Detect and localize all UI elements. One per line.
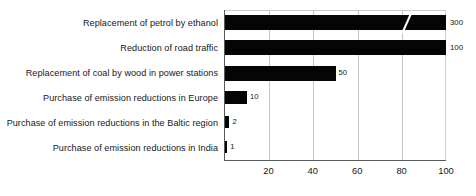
category-axis-labels: Replacement of petrol by ethanol Reducti… <box>0 10 218 161</box>
x-tick-80: 80 <box>396 166 406 176</box>
category-label-replacement-of-coal-by-wood: Replacement of coal by wood in power sta… <box>0 68 218 78</box>
gridline-80 <box>402 10 403 160</box>
bar-value-label: 1 <box>230 143 234 151</box>
bar-purchase-emission-reductions-india: 1 <box>225 141 227 153</box>
bar-replacement-of-petrol-by-ethanol <box>225 15 446 30</box>
bar-value-label-100: 100 <box>450 44 463 52</box>
gridline-40 <box>313 10 314 160</box>
plot-frame-top <box>225 10 446 11</box>
bar-row: 10 <box>225 91 446 104</box>
bar-row: 2 <box>225 116 446 128</box>
category-label-purchase-emission-reductions-baltic: Purchase of emission reductions in the B… <box>0 118 218 128</box>
plot-frame-right <box>445 10 446 160</box>
bar-chart: Replacement of petrol by ethanol Reducti… <box>0 0 476 196</box>
bar-value-label: 2 <box>232 118 236 126</box>
gridline-20 <box>269 10 270 160</box>
x-tick-60: 60 <box>352 166 362 176</box>
bar-value-label: 50 <box>339 69 347 77</box>
bar-value-label-300: 300 <box>450 19 463 27</box>
category-label-purchase-emission-reductions-europe: Purchase of emission reductions in Europ… <box>0 93 218 103</box>
bar-replacement-of-coal-by-wood: 50 <box>225 66 336 81</box>
bar-purchase-emission-reductions-baltic: 2 <box>225 116 229 128</box>
x-axis-tick-labels: 20 40 60 80 100 <box>224 163 446 179</box>
x-tick-20: 20 <box>263 166 273 176</box>
category-label-purchase-emission-reductions-india: Purchase of emission reductions in India <box>0 143 218 153</box>
gridline-60 <box>358 10 359 160</box>
bar-row: 50 <box>225 66 446 81</box>
bar-reduction-of-road-traffic <box>225 40 446 55</box>
category-label-reduction-of-road-traffic: Reduction of road traffic <box>0 43 218 53</box>
x-tick-100: 100 <box>438 166 454 176</box>
category-label-replacement-of-petrol-by-ethanol: Replacement of petrol by ethanol <box>0 18 218 28</box>
bar-row <box>225 15 446 30</box>
bar-value-label: 10 <box>250 93 258 101</box>
x-tick-40: 40 <box>308 166 318 176</box>
bar-row: 1 <box>225 141 446 153</box>
bar-purchase-emission-reductions-europe: 10 <box>225 91 247 104</box>
bar-row <box>225 40 446 55</box>
plot-area: 50 10 2 1 <box>224 10 446 161</box>
